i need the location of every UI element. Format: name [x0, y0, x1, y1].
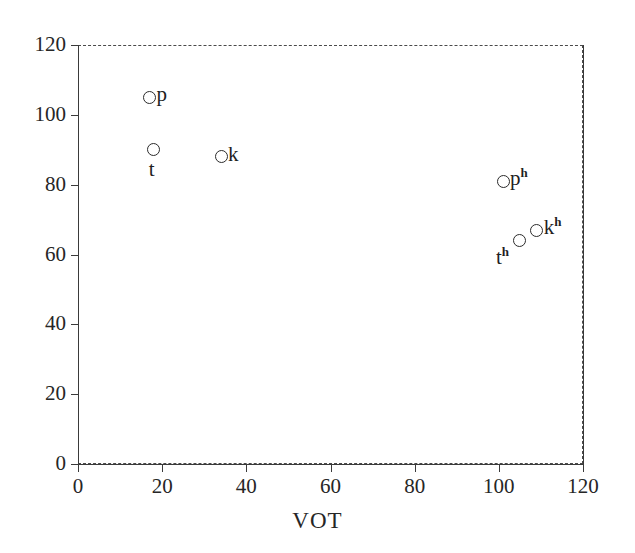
y-axis-tick-label: 20 [0, 383, 66, 404]
data-point-marker-k[interactable] [215, 150, 228, 163]
data-point-marker-p[interactable] [143, 91, 156, 104]
plot-right-edge [583, 45, 584, 465]
x-axis-tick [78, 465, 79, 472]
x-axis-tick-label: 0 [48, 476, 108, 497]
x-axis-tick [415, 465, 416, 472]
x-axis-tick-label: 60 [301, 476, 361, 497]
y-axis-tick [71, 185, 78, 186]
x-axis-tick-label: 40 [216, 476, 276, 497]
y-axis-tick-label: 120 [0, 34, 66, 55]
x-axis-tick [331, 465, 332, 472]
data-point-marker-ph[interactable] [497, 175, 510, 188]
y-axis-tick [71, 394, 78, 395]
y-axis-tick-label: 0 [0, 453, 66, 474]
y-axis-tick-label: 100 [0, 104, 66, 125]
x-axis-tick-label: 80 [385, 476, 445, 497]
data-point-label-th: th [496, 247, 509, 268]
y-axis-tick [71, 115, 78, 116]
y-axis-tick-label: 80 [0, 174, 66, 195]
y-axis-tick-label: 60 [0, 244, 66, 265]
x-axis-tick-label: 20 [132, 476, 192, 497]
x-axis-title: VOT [0, 508, 635, 534]
x-axis-tick [499, 465, 500, 472]
data-point-label-kh: kh [544, 217, 562, 238]
x-axis-tick-label: 120 [553, 476, 613, 497]
x-axis-tick [583, 465, 584, 472]
data-point-label-p: p [157, 84, 168, 105]
x-axis-tick-label: 100 [469, 476, 529, 497]
y-axis-tick [71, 464, 78, 465]
x-axis-tick [246, 465, 247, 472]
data-point-label-k: k [228, 144, 239, 165]
y-axis-tick [71, 255, 78, 256]
y-axis-tick [71, 324, 78, 325]
y-axis-line [78, 45, 79, 465]
data-point-label-t: t [149, 159, 155, 180]
scatter-plot-figure: 020406080100120020406080100120ptkphthkh … [0, 0, 635, 553]
data-point-label-ph: ph [510, 168, 528, 189]
data-point-marker-kh[interactable] [530, 224, 543, 237]
y-axis-tick-label: 40 [0, 313, 66, 334]
x-axis-tick [162, 465, 163, 472]
y-axis-tick [71, 45, 78, 46]
